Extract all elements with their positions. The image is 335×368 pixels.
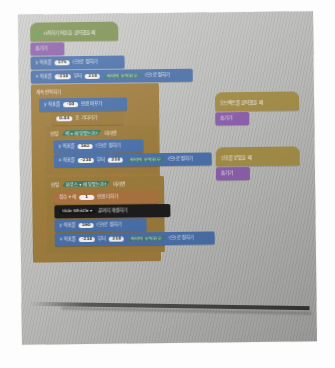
block-wait-seconds[interactable]: 0.03 초 기다리기	[51, 112, 123, 126]
side-script-1[interactable]: 오브젝트를 클릭했을 때 숨기기	[215, 91, 299, 126]
repeat-forever-body: y 좌표를 -10 만큼 바꾸기 0.03 초 기다리기 만일 벽 ▾ 에 닿았…	[37, 96, 161, 255]
random2-max-input[interactable]: 210	[108, 158, 123, 162]
block-if-touching-mouse[interactable]: 만일 마우스 ▾ 에 닿았는가? 이라면 점수 ▾ 에 1 만큼 더하기	[46, 176, 165, 253]
block-repeat-forever[interactable]: 계속 반복하기 y 좌표를 -10 만큼 바꾸기 0.03 초 기다리기	[31, 83, 161, 263]
block-change-score-by[interactable]: 점수 ▾ 에 1 만큼 더하기	[54, 190, 158, 204]
touching-mouse-condition[interactable]: 마우스 ▾ 에 닿았는가?	[62, 180, 110, 187]
random-min-input[interactable]: -210	[55, 75, 72, 79]
set-y-190-input[interactable]: 190	[79, 223, 94, 227]
block-hide-side-2[interactable]: 숨기기	[216, 167, 250, 180]
block-set-y-to-190[interactable]: y 좌표를 190 (으)로 정하기	[54, 218, 146, 232]
block-set-x-to-random[interactable]: x 좌표를 -210 부터 210 사이의 무작위 수 (으)로 정하기	[31, 69, 193, 84]
block-when-object-clicked[interactable]: 오브젝트를 클릭했을 때	[215, 91, 299, 111]
repeat-forever-footer	[33, 254, 161, 263]
block-set-x-random-3[interactable]: x 좌표를 -210 부터 210 사이의 무작위 수 (으)로 정하기	[55, 231, 215, 246]
if-touching-wall-body: y 좌표를 162 (으)로 정하기 x 좌표를 -210 부터 210 사이의…	[52, 138, 158, 169]
random-number-reporter-3[interactable]: 사이의 무작위 수	[127, 236, 166, 241]
block-set-y-to[interactable]: y 좌표를 175 (으)로 정하기	[31, 56, 125, 70]
block-change-y-by[interactable]: y 좌표를 -10 만큼 바꾸기	[39, 97, 127, 111]
if-touching-wall-footer	[46, 168, 158, 174]
block-hide[interactable]: 숨기기	[30, 42, 64, 55]
random2-min-input[interactable]: -210	[78, 158, 95, 162]
main-script-stack[interactable]: 시작하기 버튼을 클릭했을 때 숨기기 y 좌표를 175 (으)로 정하기 x…	[30, 21, 195, 264]
y-value-input[interactable]: 175	[55, 61, 70, 65]
random-number-reporter[interactable]: 사이의 무작위 수	[103, 74, 142, 79]
side-script-2[interactable]: 신호를 받았을 때 숨기기	[216, 146, 300, 181]
block-set-y-to-162[interactable]: y 좌표를 162 (으)로 정하기	[54, 139, 144, 153]
screenshot-root: 시작하기 버튼을 클릭했을 때 숨기기 y 좌표를 175 (으)로 정하기 x…	[0, 0, 335, 368]
sound-dropdown[interactable]: Hide Whistle ▾	[59, 209, 95, 214]
if-touching-mouse-body: 점수 ▾ 에 1 만큼 더하기 Hide Whistle ▾ 끝까지 재생하기 …	[52, 189, 165, 248]
block-when-signal-received[interactable]: 신호를 받았을 때	[216, 146, 300, 166]
random3-min-input[interactable]: -210	[79, 237, 96, 241]
random3-max-input[interactable]: 210	[109, 237, 124, 241]
change-y-input[interactable]: -10	[63, 102, 78, 106]
wait-seconds-input[interactable]: 0.03	[56, 117, 72, 121]
set-y-162-input[interactable]: 162	[78, 144, 93, 148]
touching-wall-condition[interactable]: 벽 ▾ 에 닿았는가?	[61, 129, 101, 135]
green-flag-icon	[35, 31, 40, 36]
block-when-green-flag-clicked[interactable]: 시작하기 버튼을 클릭했을 때	[30, 22, 118, 42]
random-max-input[interactable]: 210	[85, 74, 100, 78]
block-set-x-random-2[interactable]: x 좌표를 -210 부터 210 사이의 무작위 수 (으)로 정하기	[54, 152, 212, 167]
block-if-touching-wall[interactable]: 만일 벽 ▾ 에 닿았는가? 이라면 y 좌표를 162 (으)로 정하기	[45, 125, 158, 174]
photographed-screen: 시작하기 버튼을 클릭했을 때 숨기기 y 좌표를 175 (으)로 정하기 x…	[18, 11, 317, 345]
random-number-reporter-2[interactable]: 사이의 무작위 수	[126, 157, 165, 162]
block-hide-side-1[interactable]: 숨기기	[215, 112, 249, 125]
if-touching-mouse-footer	[47, 247, 165, 253]
score-amount-input[interactable]: 1	[79, 195, 94, 199]
block-play-sound-until-done[interactable]: Hide Whistle ▾ 끝까지 재생하기	[54, 204, 170, 218]
